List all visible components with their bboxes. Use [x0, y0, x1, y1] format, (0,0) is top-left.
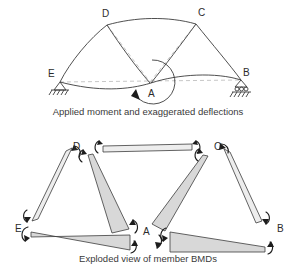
support-b	[230, 80, 251, 97]
member-ed-deflected	[60, 25, 107, 82]
node-label-e: E	[15, 223, 22, 234]
moment-arrowhead-icon	[192, 140, 198, 145]
bmd-cb	[224, 149, 262, 223]
bottom-panel-caption: Exploded view of member BMDs	[79, 253, 217, 264]
undeformed-shape	[60, 24, 241, 82]
structural-frame-figure: D C E B A Applied moment and exaggerated…	[0, 0, 296, 271]
roller-circle-icon	[244, 87, 248, 91]
hatching-icon	[230, 92, 249, 97]
member-dc-deflected	[107, 18, 196, 25]
node-label-c: C	[214, 141, 221, 152]
moment-arc-icon	[139, 60, 175, 104]
member-cb-deflected	[196, 24, 241, 80]
node-label-a: A	[143, 226, 150, 237]
node-label-b: B	[277, 223, 284, 234]
bmd-ea	[31, 232, 130, 250]
deflected-frame	[60, 18, 241, 88]
moment-arrowhead-icon	[97, 140, 103, 145]
bmd-ab	[170, 232, 265, 252]
moment-arrowhead-icon	[24, 235, 30, 242]
member-ed	[24, 145, 81, 223]
moment-arrowhead-icon	[131, 240, 138, 246]
roller-circle-icon	[240, 87, 244, 91]
node-label-e: E	[48, 68, 55, 79]
moment-arrowhead-icon	[267, 241, 274, 247]
moment-arrowhead-icon	[155, 242, 162, 249]
bmd-ca	[152, 155, 208, 231]
top-panel-caption: Applied moment and exaggerated deflectio…	[53, 106, 244, 117]
bmd-ed	[32, 148, 72, 221]
roller-circle-icon	[235, 87, 239, 91]
node-label-a: A	[148, 88, 155, 99]
moment-arrowhead-icon	[131, 89, 140, 100]
roller-triangle-icon	[235, 80, 247, 87]
member-cb	[219, 143, 269, 225]
moment-arrowhead-icon	[81, 149, 87, 155]
node-label-d: D	[73, 141, 80, 152]
moment-arrowhead-icon	[162, 235, 168, 242]
member-da	[79, 149, 137, 233]
top-panel: D C E B A Applied moment and exaggerated…	[48, 7, 251, 117]
bmd-da	[88, 154, 129, 233]
bmd-dc	[103, 144, 192, 152]
member-dc	[95, 140, 200, 153]
member-ab	[161, 228, 274, 254]
member-ea-deflected	[60, 82, 151, 89]
member-ab-deflected	[151, 75, 241, 83]
node-label-b: B	[243, 67, 250, 78]
node-label-c: C	[198, 7, 205, 18]
bottom-panel: D C E B A Exploded view of member BMDs	[15, 140, 284, 264]
hatching-icon	[49, 90, 68, 95]
dashed-member-da	[107, 25, 150, 82]
node-label-d: D	[102, 8, 109, 19]
